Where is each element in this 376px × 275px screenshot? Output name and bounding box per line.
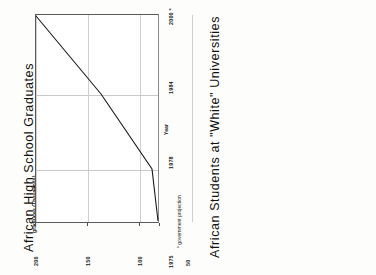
- ytick-200: 200: [33, 256, 39, 266]
- tickmark-0: [159, 223, 160, 226]
- xtick-2000: 2000 *: [168, 8, 174, 25]
- footnote-left: * government projection: [176, 195, 182, 248]
- figure-african-high-school-graduates: African High School Graduates graduates …: [0, 0, 188, 275]
- tickmark-150: [87, 223, 88, 226]
- ytick-100: 100: [137, 256, 143, 266]
- ytick-150: 150: [85, 256, 91, 266]
- xtick-1984: 1984: [168, 81, 174, 94]
- page-title-right: African Students at "White" Universities: [208, 16, 222, 258]
- line-series-graduates: [35, 14, 159, 223]
- x-axis-label-left: Year: [163, 124, 169, 135]
- xtick-1975: 1975: [168, 255, 174, 268]
- tickmark-100: [139, 223, 140, 226]
- figure-african-students-white-universities: African Students at "White" Universities…: [188, 0, 376, 275]
- figure-page: African High School Graduates graduates …: [0, 0, 376, 275]
- tickmark-200: [35, 223, 36, 226]
- xtick-1978: 1978: [168, 156, 174, 169]
